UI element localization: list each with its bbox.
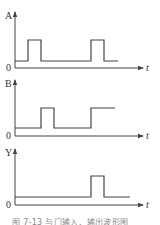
figure-caption: 图 7-13 与门输入、输出波形图 — [12, 216, 128, 225]
waveform-y — [15, 176, 130, 197]
panel-a: A 0 t — [5, 10, 149, 73]
signal-label-y: Y — [5, 147, 12, 158]
panel-b: B 0 t — [5, 78, 149, 141]
time-label-b: t — [146, 130, 149, 141]
origin-label-y: 0 — [6, 199, 11, 210]
waveform-b — [15, 108, 115, 128]
and-gate-waveform-diagram: A 0 t B 0 t Y 0 t — [0, 0, 160, 225]
signal-label-a: A — [5, 10, 13, 21]
origin-label-b: 0 — [6, 130, 11, 141]
signal-label-b: B — [5, 78, 12, 89]
panel-y: Y 0 t — [5, 147, 149, 210]
waveform-a — [15, 40, 118, 61]
time-label-y: t — [146, 199, 149, 210]
origin-label-a: 0 — [6, 62, 11, 73]
time-label-a: t — [146, 62, 149, 73]
